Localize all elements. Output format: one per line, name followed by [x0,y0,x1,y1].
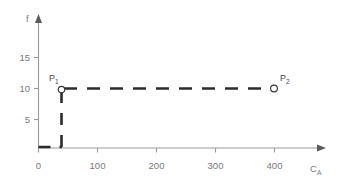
x-axis-title-subscript: A [317,169,322,176]
chart-figure: f CA 15 10 5 0 100 200 300 400 P1 P2 [0,0,342,183]
y-tick-label-10: 10 [19,83,30,94]
data-point-label-p2: P2 [280,73,290,85]
x-axis-title: CA [310,163,322,176]
data-point-label-p2-subscript: 2 [286,78,290,85]
data-point-label-p1-subscript: 1 [55,78,59,85]
y-axis-arrow-icon [35,14,42,23]
x-tick-label-300: 300 [208,160,224,171]
y-tick-label-5: 5 [25,114,30,125]
data-point-label-p1: P1 [49,73,59,85]
data-point-marker-p1[interactable] [58,86,64,92]
y-tick-label-15: 15 [19,52,30,63]
plot-area: f CA 15 10 5 0 100 200 300 400 P1 P2 [0,0,342,183]
x-tick-label-100: 100 [90,160,106,171]
x-axis-arrow-icon [317,145,326,152]
x-tick-label-200: 200 [149,160,165,171]
x-tick-label-0: 0 [36,160,41,171]
y-axis-title: f [26,13,29,24]
x-tick-label-400: 400 [267,160,283,171]
data-point-marker-p2[interactable] [271,85,278,92]
